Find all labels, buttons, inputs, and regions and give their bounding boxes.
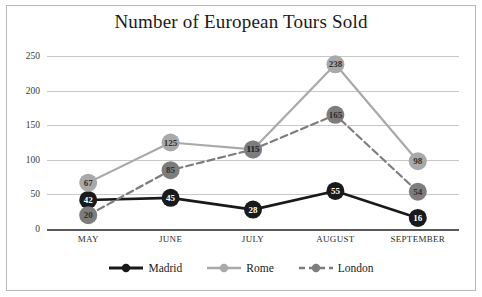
data-point-rome-september	[409, 152, 427, 170]
y-axis-tick-50: 50	[0, 189, 40, 199]
x-axis-tick-august: AUGUST	[316, 234, 354, 244]
legend-item-madrid[interactable]: Madrid	[108, 261, 182, 275]
data-point-madrid-september	[409, 209, 427, 227]
data-point-london-september	[409, 183, 427, 201]
x-axis-tick-june: JUNE	[159, 234, 182, 244]
x-axis-tick-may: MAY	[78, 234, 99, 244]
data-point-london-july	[244, 140, 262, 158]
plot-area: 42452855166712511523898208511516554	[47, 56, 459, 229]
data-point-rome-august	[326, 55, 344, 73]
chart-title: Number of European Tours Sold	[0, 11, 482, 33]
legend-item-rome[interactable]: Rome	[206, 261, 273, 275]
chart-canvas: Number of European Tours Sold 0501001502…	[0, 0, 482, 297]
x-axis-tick-july: JULY	[242, 234, 264, 244]
x-axis-tick-september: SEPTEMBER	[390, 234, 445, 244]
legend-swatch-london	[298, 261, 334, 275]
gridline-0	[47, 229, 459, 231]
legend-item-london[interactable]: London	[298, 261, 374, 275]
legend-label-madrid: Madrid	[148, 262, 182, 274]
data-point-rome-june	[162, 134, 180, 152]
legend-label-rome: Rome	[246, 262, 273, 274]
data-point-london-august	[326, 106, 344, 124]
legend-label-london: London	[338, 262, 374, 274]
data-point-madrid-july	[244, 201, 262, 219]
y-axis-tick-100: 100	[0, 155, 40, 165]
data-point-madrid-august	[326, 182, 344, 200]
legend-swatch-rome	[206, 261, 242, 275]
data-point-london-may	[79, 206, 97, 224]
data-point-rome-may	[79, 174, 97, 192]
data-point-london-june	[162, 161, 180, 179]
chart-legend: MadridRomeLondon	[0, 261, 482, 275]
series-lines	[47, 56, 459, 229]
legend-swatch-madrid	[108, 261, 144, 275]
series-line-london	[88, 115, 418, 215]
y-axis-tick-0: 0	[0, 224, 40, 234]
y-axis-tick-200: 200	[0, 86, 40, 96]
series-line-rome	[88, 64, 418, 182]
data-point-madrid-june	[162, 189, 180, 207]
y-axis-tick-150: 150	[0, 120, 40, 130]
y-axis-tick-250: 250	[0, 51, 40, 61]
